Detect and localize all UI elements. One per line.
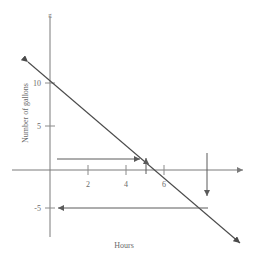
x-axis-title: Hours	[114, 241, 134, 250]
gallons-line	[28, 62, 240, 243]
y-tick-label-5: 5	[37, 122, 41, 131]
x-tick-label-2: 2	[86, 180, 90, 189]
y-tick-label-10: 10	[33, 79, 41, 88]
x-tick-label-6: 6	[162, 180, 166, 189]
y-axis-title: Number of gallons	[21, 83, 30, 143]
y-axis-top-mark: g	[48, 11, 52, 19]
line-graph-svg: 2 4 6 10 5 -5 Hours Number of gallons g	[0, 0, 256, 261]
x-tick-label-4: 4	[124, 180, 128, 189]
y-tick-label-neg5: -5	[34, 204, 41, 213]
annotation-arrows	[57, 153, 208, 208]
axes-group	[12, 17, 243, 237]
data-line-group	[28, 62, 240, 243]
figure-canvas: 2 4 6 10 5 -5 Hours Number of gallons g	[0, 0, 256, 261]
